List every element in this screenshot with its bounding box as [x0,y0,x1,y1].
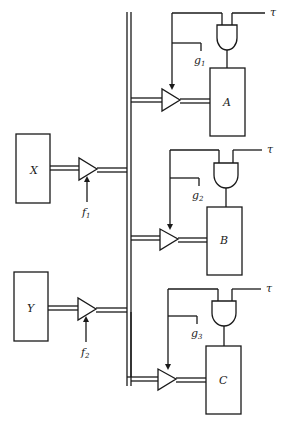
bus-diagram: X f1 Y f2 A τ [0,0,289,424]
destination-b: B τ g2 [131,143,274,275]
svg-text:C: C [219,374,228,387]
source-y: Y f2 [14,272,127,360]
buffer-x-icon [79,158,97,180]
svg-text:g3: g3 [191,327,203,341]
svg-text:g1: g1 [194,54,206,68]
svg-text:τ: τ [270,6,277,19]
destination-c: C τ g3 [127,282,273,414]
and-gate-b-icon [214,163,238,188]
buffer-b-icon [160,229,178,250]
svg-text:τ: τ [267,143,274,156]
and-gate-a-icon [217,25,237,50]
destination-a: A τ g1 [131,6,277,136]
svg-text:g2: g2 [192,189,204,203]
source-x: X f1 [16,134,127,220]
svg-text:f1: f1 [81,206,91,220]
and-gate-c-icon [212,301,236,326]
svg-text:B: B [219,234,228,247]
buffer-y-icon [78,298,96,320]
buffer-c-icon [158,369,176,390]
svg-text:f2: f2 [80,346,90,360]
svg-text:τ: τ [266,282,273,295]
svg-text:A: A [222,96,231,109]
buffer-a-icon [162,89,180,111]
svg-text:X: X [29,164,39,177]
